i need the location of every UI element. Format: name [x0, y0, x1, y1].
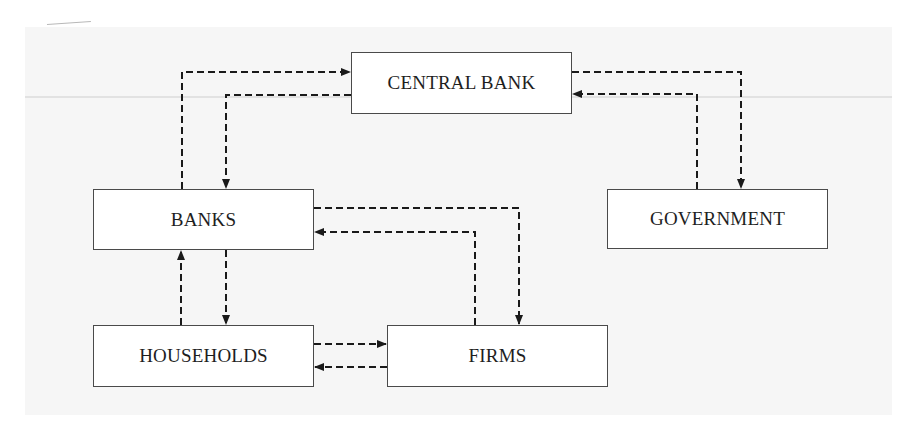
- edge-banks-to-central-bank: [182, 72, 350, 189]
- node-central-bank: CENTRAL BANK: [351, 52, 572, 114]
- edge-central-bank-to-government: [572, 72, 741, 188]
- node-label: BANKS: [171, 209, 236, 231]
- node-label: FIRMS: [468, 345, 526, 367]
- node-label: HOUSEHOLDS: [139, 345, 268, 367]
- node-households: HOUSEHOLDS: [93, 325, 314, 387]
- edge-firms-to-banks: [315, 232, 475, 325]
- node-firms: FIRMS: [387, 325, 608, 387]
- edge-central-bank-to-banks: [226, 95, 351, 188]
- node-government: GOVERNMENT: [607, 189, 828, 249]
- node-label: CENTRAL BANK: [388, 72, 536, 94]
- edge-government-to-central-bank: [573, 94, 697, 189]
- node-label: GOVERNMENT: [650, 208, 785, 230]
- node-banks: BANKS: [93, 189, 314, 250]
- edge-banks-to-firms: [314, 208, 519, 324]
